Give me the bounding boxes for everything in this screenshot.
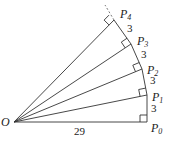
segment-label-p0p1: 3: [151, 102, 157, 114]
diagram-canvas: O P0 P1 P2 P3 P4 3 3 3 3 29: [0, 0, 170, 144]
right-angle-p4: [104, 15, 109, 25]
base-length-label: 29: [74, 125, 86, 137]
ray-op4: [14, 20, 114, 122]
right-angle-p0: [140, 115, 147, 122]
segment-label-p2p3: 3: [141, 48, 147, 60]
label-o: O: [1, 115, 10, 129]
ray-op2: [14, 69, 142, 122]
segment-label-p1p2: 3: [150, 74, 156, 86]
label-p3: P3: [136, 34, 148, 49]
label-p4: P4: [119, 7, 131, 22]
right-angle-p3: [121, 38, 127, 48]
right-angle-markers: [104, 15, 147, 122]
label-p0: P0: [150, 121, 162, 136]
segment-label-p3p4: 3: [127, 22, 133, 34]
